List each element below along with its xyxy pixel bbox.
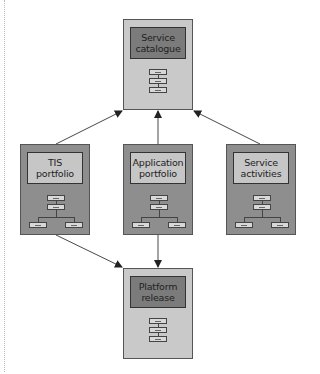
node-title: Service activities bbox=[233, 152, 289, 184]
node-tis-portfolio: TIS portfolio bbox=[20, 144, 90, 235]
node-service-activities: Service activities bbox=[226, 144, 296, 235]
node-platform-release: Platform release bbox=[123, 268, 193, 359]
node-title: Platform release bbox=[130, 276, 186, 308]
node-service-catalogue: Service catalogue bbox=[123, 19, 193, 110]
node-title: Application portfolio bbox=[130, 152, 186, 184]
node-title: Service catalogue bbox=[130, 27, 186, 59]
node-title: TIS portfolio bbox=[27, 152, 83, 184]
node-application-portfolio: Application portfolio bbox=[123, 144, 193, 235]
